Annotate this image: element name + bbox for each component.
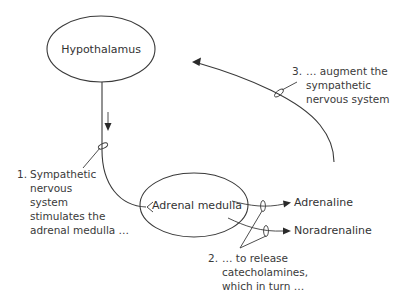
hypothalamus-label: Hypothalamus bbox=[61, 43, 141, 56]
step3-line: nervous system bbox=[306, 93, 390, 105]
feedback-curve-line bbox=[198, 63, 334, 162]
step1-line: system bbox=[30, 196, 68, 208]
step2-annotation: 2. … to release catecholamines, which in… bbox=[208, 252, 308, 292]
step2-line: … to release bbox=[222, 252, 288, 264]
step3-annotation: 3. … augment the sympathetic nervous sys… bbox=[292, 65, 390, 105]
step3-leader-line bbox=[282, 82, 297, 90]
step1-line: adrenal medulla … bbox=[30, 224, 129, 236]
adrenaline-label: Adrenaline bbox=[294, 196, 353, 209]
step3-number: 3. bbox=[292, 65, 302, 77]
adrenal-medulla-label: Adrenal medulla bbox=[152, 199, 242, 212]
step1-annotation: 1. Sympathetic nervous system stimulates… bbox=[17, 168, 129, 236]
noradrenaline-marker bbox=[264, 226, 269, 237]
adrenal-medulla-node: Adrenal medulla bbox=[140, 173, 248, 237]
down-arrow-icon bbox=[105, 112, 112, 131]
step1-line: nervous bbox=[30, 182, 72, 194]
feedback-arrowhead-icon bbox=[192, 58, 201, 67]
step2-line: which in turn … bbox=[222, 280, 304, 292]
step1-leader-line bbox=[83, 148, 100, 168]
adrenaline-arrowhead-icon bbox=[283, 201, 291, 208]
step1-line: stimulates the bbox=[30, 210, 105, 222]
noradrenaline-arrowhead-icon bbox=[283, 228, 291, 235]
sympathetic-pathway-line bbox=[102, 82, 146, 207]
diagram-canvas: Hypothalamus Adrenal medulla Adrenaline … bbox=[0, 0, 395, 301]
hypothalamus-node: Hypothalamus bbox=[47, 16, 155, 82]
step1-number: 1. bbox=[17, 168, 27, 180]
step3-line: … augment the bbox=[306, 65, 388, 77]
step2-line: catecholamines, bbox=[222, 266, 308, 278]
noradrenaline-label: Noradrenaline bbox=[294, 224, 372, 237]
step3-line: sympathetic bbox=[306, 79, 371, 91]
step2-number: 2. bbox=[208, 252, 218, 264]
step1-line: Sympathetic bbox=[30, 168, 96, 180]
